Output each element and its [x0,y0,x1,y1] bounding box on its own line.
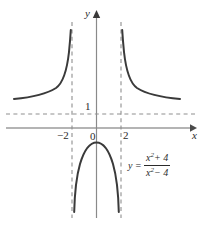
y-tick-label-one: 1 [85,101,91,112]
x-axis-label: x [192,130,197,141]
equation-lhs: y [128,160,132,171]
x-tick-label-neg2: −2 [57,130,69,141]
function-graph-figure: y x −2 0 2 1 y = x2+ 4 x2− 4 [0,0,205,227]
equation-numerator: x2+ 4 [144,152,170,166]
denominator-rest: − 4 [154,167,168,178]
x-tick-label-zero: 0 [90,131,96,142]
equation-annotation: y = x2+ 4 x2− 4 [128,152,170,179]
plot-canvas [0,0,205,227]
curve-right-branch [122,30,180,99]
numerator-rest: + 4 [154,152,168,163]
y-axis-label: y [85,8,90,19]
x-axis [6,124,197,132]
equation-fraction: x2+ 4 x2− 4 [144,152,170,179]
curve-left-branch [14,30,71,99]
x-tick-label-two: 2 [123,130,129,141]
equation-equals-sign: = [135,160,141,171]
equation-denominator: x2− 4 [144,166,170,179]
